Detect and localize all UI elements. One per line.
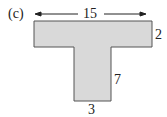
figure-label: (c) bbox=[8, 7, 24, 21]
stem-width-label: 3 bbox=[88, 103, 95, 117]
top-width-label: 15 bbox=[83, 7, 97, 21]
top-height-label: 2 bbox=[155, 28, 162, 42]
stem-height-label: 7 bbox=[114, 73, 121, 87]
t-shape bbox=[34, 21, 152, 101]
